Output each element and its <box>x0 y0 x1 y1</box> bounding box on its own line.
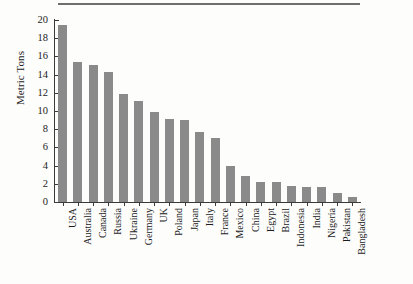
x-tick-label: Bangladesh <box>356 208 367 255</box>
x-tick-mark <box>93 203 94 206</box>
x-tick-mark <box>200 203 201 206</box>
x-axis-ticks: USAAustraliaCanadaRussiaUkraineGermanyUK… <box>0 0 413 284</box>
x-tick-label: Egypt <box>265 208 276 232</box>
x-tick-mark <box>352 203 353 206</box>
x-tick-label: Italy <box>204 208 215 226</box>
x-tick-label: Nigeria <box>326 208 337 238</box>
x-tick-label: Germany <box>143 208 154 245</box>
x-tick-mark <box>291 203 292 206</box>
x-tick-label: Indonesia <box>295 208 306 247</box>
x-tick-label: Pakistan <box>341 208 352 242</box>
x-tick-label: Mexico <box>234 208 245 239</box>
x-tick-label: Poland <box>173 208 184 236</box>
x-tick-mark <box>230 203 231 206</box>
x-tick-label: Japan <box>189 208 200 231</box>
x-tick-mark <box>185 203 186 206</box>
x-tick-mark <box>307 203 308 206</box>
x-tick-mark <box>322 203 323 206</box>
x-tick-mark <box>124 203 125 206</box>
x-tick-label: USA <box>67 208 78 228</box>
x-tick-mark <box>276 203 277 206</box>
x-tick-mark <box>154 203 155 206</box>
chart-figure: Metric Tons 02468101214161820 USAAustral… <box>0 0 413 284</box>
x-tick-label: Australia <box>82 208 93 245</box>
x-tick-label: France <box>219 208 230 235</box>
x-tick-mark <box>261 203 262 206</box>
x-tick-mark <box>108 203 109 206</box>
x-tick-mark <box>169 203 170 206</box>
x-tick-label: Brazil <box>280 208 291 232</box>
x-tick-mark <box>215 203 216 206</box>
x-tick-label: Canada <box>97 208 108 238</box>
x-tick-label: Russia <box>112 208 123 235</box>
x-tick-mark <box>246 203 247 206</box>
x-tick-mark <box>78 203 79 206</box>
x-tick-label: China <box>250 208 261 232</box>
x-tick-mark <box>337 203 338 206</box>
x-tick-label: India <box>311 208 322 229</box>
x-tick-label: Ukraine <box>128 208 139 240</box>
x-tick-label: UK <box>158 208 169 222</box>
x-tick-mark <box>139 203 140 206</box>
x-tick-mark <box>63 203 64 206</box>
